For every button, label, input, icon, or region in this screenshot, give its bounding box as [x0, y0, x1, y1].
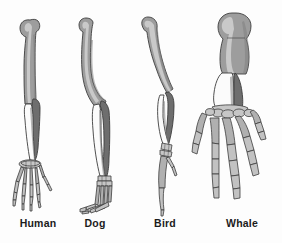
dog-carpals: [97, 176, 112, 186]
specimen-label-dog: Dog: [62, 217, 128, 229]
bird-carpals: [160, 143, 172, 157]
human-carpals: [19, 160, 41, 168]
dog-metacarpals: [95, 186, 112, 205]
homologous-limbs-figure: .hum { fill:#9d9d9d; stroke:#3d3d3d; str…: [0, 0, 282, 243]
limb-skeleton-illustration: .hum { fill:#9d9d9d; stroke:#3d3d3d; str…: [0, 0, 282, 243]
whale-humerus: [218, 13, 251, 74]
specimen-label-bird: Bird: [131, 217, 199, 229]
specimen-label-whale: Whale: [203, 217, 281, 229]
